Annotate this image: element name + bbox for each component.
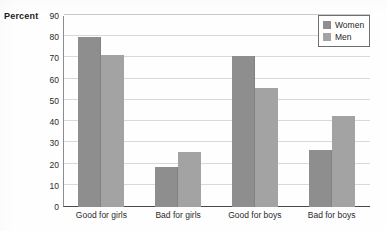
y-tick-label-50: 50 (37, 97, 59, 106)
bar-men[interactable] (101, 55, 124, 207)
y-tick-label-90: 90 (37, 12, 59, 21)
x-axis-labels: Good for girlsBad for girlsGood for boys… (63, 210, 370, 228)
x-axis-label: Bad for boys (308, 210, 356, 220)
y-tick-label-20: 20 (37, 161, 59, 170)
x-axis-label: Good for boys (228, 210, 281, 220)
men-swatch-icon (323, 33, 331, 41)
bar-women[interactable] (309, 150, 332, 207)
y-tick-label-30: 30 (37, 139, 59, 148)
y-tick-label-10: 10 (37, 182, 59, 191)
bar-group (155, 16, 201, 207)
bar-men[interactable] (332, 116, 355, 207)
legend: Women Men (318, 15, 370, 47)
x-axis-label: Good for girls (76, 210, 127, 220)
bar-men[interactable] (178, 152, 201, 207)
bar-group (78, 16, 124, 207)
bar-women[interactable] (78, 37, 101, 207)
x-axis-label: Bad for girls (155, 210, 200, 220)
bar-group (232, 16, 278, 207)
bar-women[interactable] (155, 167, 178, 207)
y-tick-label-70: 70 (37, 54, 59, 63)
y-tick-label-40: 40 (37, 118, 59, 127)
women-swatch-icon (323, 21, 331, 29)
y-tick-label-60: 60 (37, 76, 59, 85)
y-axis-title: Percent (4, 11, 38, 21)
legend-label-women: Women (335, 21, 364, 30)
bar-chart: Percent 0102030405060708090 Good for gir… (0, 0, 386, 231)
bar-women[interactable] (232, 56, 255, 207)
y-tick-label-80: 80 (37, 33, 59, 42)
bar-men[interactable] (255, 88, 278, 207)
y-tick-label-0: 0 (37, 203, 59, 212)
legend-item-women[interactable]: Women (323, 19, 364, 31)
legend-item-men[interactable]: Men (323, 31, 364, 43)
legend-label-men: Men (335, 33, 352, 42)
